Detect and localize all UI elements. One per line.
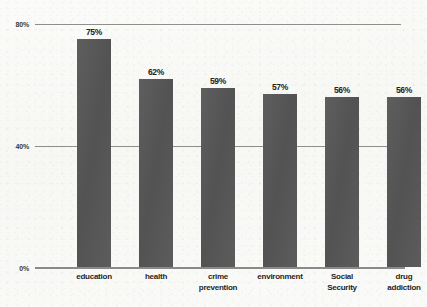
category-label-line: addiction [368,283,427,294]
bar-group-environment: 57% [249,10,311,267]
category-label-line: drug [368,272,427,283]
bar-environment[interactable] [263,94,297,267]
bar-series: 75% 62% 59% 57% 56% 56% [35,10,415,268]
bar-group-social-security: 56% [311,10,373,267]
bar-chart: 80% 40% 0% 75% 62% 59% 57% [0,0,427,307]
bar-group-crime-prevention: 59% [187,10,249,267]
bar-value-label: 62% [125,67,187,77]
bar-value-label: 56% [373,85,427,95]
bar-group-health: 62% [125,10,187,267]
bar-group-drug-addiction: 56% [373,10,427,267]
y-axis-tick-label-40: 40% [16,143,29,150]
bar-social-security[interactable] [325,97,359,267]
bar-health[interactable] [139,79,173,267]
x-axis-category-labels: education health crimeprevention environ… [35,272,415,304]
category-label-line: prevention [182,283,254,294]
bar-group-education: 75% [63,10,125,267]
bar-value-label: 75% [63,27,125,37]
bar-drug-addiction[interactable] [387,97,421,267]
bar-value-label: 56% [311,85,373,95]
bar-crime-prevention[interactable] [201,88,235,267]
bar-value-label: 57% [249,82,311,92]
plot-area: 80% 40% 0% 75% 62% 59% 57% [35,10,415,268]
bar-value-label: 59% [187,76,249,86]
bar-education[interactable] [77,39,111,267]
y-axis-tick-label-0: 0% [19,265,29,272]
category-label-drug-addiction: drugaddiction [368,272,427,293]
y-axis-tick-label-80: 80% [16,21,29,28]
